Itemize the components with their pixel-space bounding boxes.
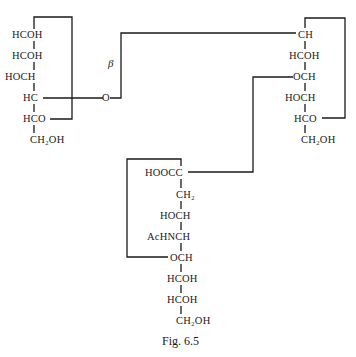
right-row-2: HCOH bbox=[289, 50, 320, 62]
sialic-row-5: OCH bbox=[170, 252, 193, 264]
beta-label: β bbox=[108, 57, 113, 69]
right-row-5: HCO bbox=[294, 113, 317, 125]
sialic-row-1: HOOCC bbox=[145, 167, 183, 179]
right-row-6: CH₂OH bbox=[301, 134, 335, 146]
sialic-row-4: AcHNCH bbox=[147, 231, 190, 243]
left-row-2: HCOH bbox=[12, 50, 43, 62]
sialic-row-2: CH₂ bbox=[176, 189, 195, 201]
figure-caption: Fig. 6.5 bbox=[162, 334, 199, 349]
glycoside-oxygen: O bbox=[102, 92, 110, 104]
right-row-1: CH bbox=[298, 29, 313, 41]
left-row-6: CH₂OH bbox=[30, 134, 64, 146]
sialic-row-8: CH₂OH bbox=[176, 315, 210, 327]
left-row-1: HCOH bbox=[12, 29, 43, 41]
left-row-5: HCO bbox=[23, 113, 46, 125]
right-row-3: OCH bbox=[293, 71, 316, 83]
left-row-4: HC bbox=[23, 92, 38, 104]
right-row-4: HOCH bbox=[285, 92, 316, 104]
sialic-row-7: HCOH bbox=[167, 294, 198, 306]
sialic-row-3: HOCH bbox=[160, 210, 191, 222]
left-row-3: HOCH bbox=[5, 71, 36, 83]
sialic-row-6: HCOH bbox=[167, 273, 198, 285]
